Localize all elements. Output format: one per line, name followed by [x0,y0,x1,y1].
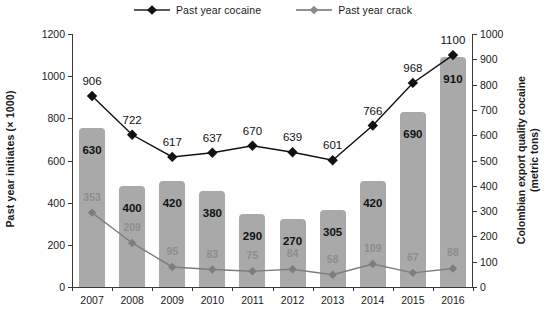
legend-marker-cocaine-icon [133,4,171,16]
y-axis-right-title-line1: Colombian export quality cocaine [515,76,527,244]
y-axis-right-tick [473,236,477,237]
data-point-marker [328,271,336,279]
data-point-marker [449,264,457,272]
cocaine-value-label: 906 [82,75,101,87]
data-point-marker [208,265,216,273]
y-axis-right-tick [473,135,477,136]
y-axis-right-tick [473,110,477,111]
data-point-marker [247,141,257,151]
legend-label-cocaine: Past year cocaine [176,4,261,16]
data-point-marker [448,50,458,60]
cocaine-value-label: 639 [283,131,302,143]
x-axis-tick [192,287,193,291]
x-axis-tick [313,287,314,291]
line-path [92,55,453,160]
cocaine-value-label: 968 [403,62,422,74]
y-axis-left-tick-label: 600 [47,155,65,167]
y-axis-right-tick [473,34,477,35]
data-point-marker [288,265,296,273]
x-axis-label: 2016 [441,294,464,306]
x-axis-label: 2010 [201,294,224,306]
data-point-marker [287,147,297,157]
data-point-marker [248,267,256,275]
x-axis-label: 2007 [80,294,103,306]
legend-marker-crack-icon [295,4,333,16]
y-axis-right-tick-label: 200 [480,230,498,242]
data-point-marker [409,269,417,277]
x-axis-tick [433,287,434,291]
x-axis-tick [112,287,113,291]
y-axis-right-tick-label: 900 [480,53,498,65]
y-axis-left-tick-label: 1200 [42,28,65,40]
y-axis-right-tick-label: 500 [480,155,498,167]
chart-legend: Past year cocaine Past year crack [0,4,545,16]
y-axis-right-title: Colombian export quality cocaine (metric… [511,20,545,300]
y-axis-left-tick-label: 200 [47,239,65,251]
x-axis-label: 2015 [401,294,424,306]
y-axis-left-title: Past year initiates (× 1000) [2,0,18,317]
cocaine-value-label: 722 [123,114,142,126]
cocaine-value-label: 601 [323,139,342,151]
y-axis-right-tick-label: 700 [480,104,498,116]
x-axis-tick [473,287,474,291]
x-axis-tick [152,287,153,291]
cocaine-value-label: 1100 [441,34,466,46]
y-axis-right-tick-label: 300 [480,205,498,217]
x-axis-label: 2012 [281,294,304,306]
y-axis-left-tick-label: 1000 [42,70,65,82]
y-axis-left-tick-label: 800 [47,112,65,124]
y-axis-right-tick-label: 0 [480,281,486,293]
line-path [92,213,453,275]
data-point-marker [168,263,176,271]
y-axis-left-tick-label: 0 [59,281,65,293]
x-axis-label: 2011 [241,294,264,306]
x-axis-label: 2008 [120,294,143,306]
y-axis-right-tick [473,211,477,212]
y-axis-right-tick [473,161,477,162]
x-axis-label: 2014 [361,294,384,306]
cocaine-value-label: 637 [203,132,222,144]
cocaine-value-label: 766 [363,105,382,117]
y-axis-right-title-line2: (metric tons) [528,128,540,192]
data-point-marker [167,152,177,162]
data-point-marker [369,260,377,268]
x-axis-tick [393,287,394,291]
cocaine-value-label: 670 [243,125,262,137]
chart-container: Past year cocaine Past year crack Past y… [0,0,545,317]
y-axis-right-tick-label: 1000 [480,28,503,40]
y-axis-right-tick [473,186,477,187]
x-axis-tick [353,287,354,291]
y-axis-right-tick [473,59,477,60]
data-point-marker [207,147,217,157]
y-axis-right-tick-label: 400 [480,180,498,192]
plot-area: 020040060080010001200 010020030040050060… [72,34,473,287]
legend-item-past-year-cocaine: Past year cocaine [133,4,261,16]
x-axis-label: 2013 [321,294,344,306]
x-axis-tick [72,287,73,291]
legend-label-crack: Past year crack [338,4,412,16]
cocaine-value-label: 617 [163,136,182,148]
x-axis-tick [232,287,233,291]
x-axis-label: 2009 [161,294,184,306]
y-axis-right-tick [473,262,477,263]
y-axis-right-tick-label: 600 [480,129,498,141]
legend-item-past-year-crack: Past year crack [295,4,412,16]
x-axis-tick [273,287,274,291]
